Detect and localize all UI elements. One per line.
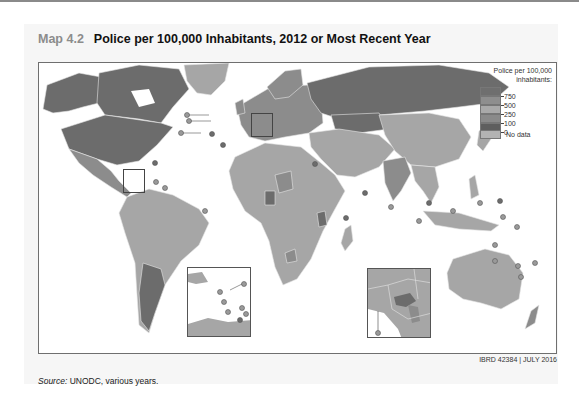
- map-credit: IBRD 42384 | JULY 2016: [479, 356, 557, 363]
- map-legend: Police per 100,000 inhabitants: 750 500 …: [468, 66, 552, 135]
- legend-label-100: 100: [504, 119, 516, 128]
- legend-swatch-250: [480, 105, 501, 114]
- inset-caribbean: [187, 267, 251, 337]
- legend-label-750: 750: [504, 92, 516, 101]
- inset-central-europe: [367, 268, 431, 338]
- top-rule: [0, 0, 579, 2]
- map-title-text: Police per 100,000 Inhabitants, 2012 or …: [94, 32, 431, 46]
- map-number: Map 4.2: [38, 32, 84, 46]
- source-label: Source:: [38, 376, 67, 386]
- legend-swatch-100: [480, 114, 501, 123]
- inset-marker-caribbean: [123, 169, 145, 193]
- legend-label-250: 250: [504, 110, 516, 119]
- world-map: Police per 100,000 inhabitants: 750 500 …: [38, 62, 557, 354]
- source-text: UNODC, various years.: [67, 376, 158, 386]
- legend-ramp: 750 500 250 100 0: [480, 87, 552, 135]
- source-note: Source: UNODC, various years.: [38, 376, 158, 386]
- legend-no-data-label: No data: [506, 130, 531, 139]
- map-title: Map 4.2Police per 100,000 Inhabitants, 2…: [38, 32, 431, 46]
- legend-title: Police per 100,000 inhabitants:: [468, 66, 552, 84]
- legend-label-500: 500: [504, 101, 516, 110]
- legend-swatch-no-data: [480, 130, 501, 139]
- inset-caribbean-graphic: [188, 268, 251, 337]
- inset-europe-graphic: [368, 269, 431, 338]
- legend-swatch-750: [480, 87, 501, 96]
- inset-marker-europe: [251, 113, 273, 137]
- legend-swatch-500: [480, 96, 501, 105]
